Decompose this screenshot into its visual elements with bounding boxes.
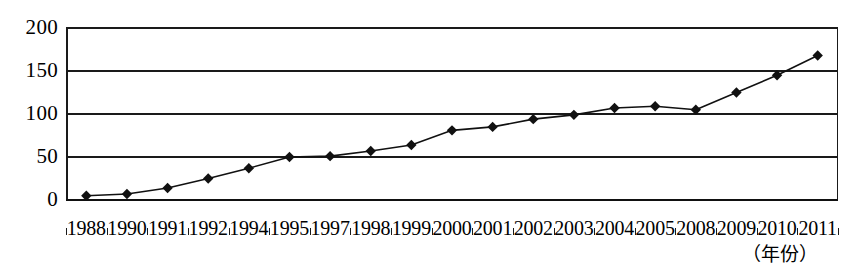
x-tick-label-2004: 2004 (592, 216, 638, 240)
x-tick-label-1999: 1999 (388, 216, 434, 240)
x-axis-title: （年份） (742, 243, 818, 267)
data-point-marker (81, 191, 91, 201)
data-point-marker (528, 114, 538, 124)
x-axis-tick-labels: 1988199019911992199419951997199819992000… (0, 216, 862, 242)
x-tick-label-2001: 2001 (470, 216, 516, 240)
x-tick-label-1988: 1988 (63, 216, 109, 240)
data-point-marker (203, 173, 213, 183)
data-point-marker (406, 140, 416, 150)
data-point-marker (284, 152, 294, 162)
data-point-marker (122, 189, 132, 199)
data-point-marker (487, 122, 497, 132)
data-point-marker (731, 87, 741, 97)
x-tick-label-2000: 2000 (429, 216, 475, 240)
x-tick-label-2009: 2009 (713, 216, 759, 240)
data-point-marker (244, 163, 254, 173)
data-point-marker (366, 146, 376, 156)
y-tick-label-100: 100 (10, 103, 58, 124)
data-point-marker (162, 183, 172, 193)
y-tick-label-150: 150 (10, 60, 58, 81)
x-tick-label-1990: 1990 (104, 216, 150, 240)
data-point-marker (569, 110, 579, 120)
x-tick-label-2002: 2002 (510, 216, 556, 240)
data-series-layer (66, 28, 838, 200)
x-tick-label-1994: 1994 (226, 216, 272, 240)
data-point-marker (325, 151, 335, 161)
x-tick-label-2005: 2005 (632, 216, 678, 240)
x-tick-label-1995: 1995 (266, 216, 312, 240)
data-point-marker (609, 103, 619, 113)
x-tick-label-2010: 2010 (754, 216, 800, 240)
y-tick-label-50: 50 (10, 146, 58, 167)
x-tick-label-1991: 1991 (145, 216, 191, 240)
x-tick-label-1997: 1997 (307, 216, 353, 240)
x-tick-label-2003: 2003 (551, 216, 597, 240)
line-chart: 050100150200 198819901991199219941995199… (0, 0, 862, 273)
x-tick-label-2008: 2008 (673, 216, 719, 240)
x-tick-label-2011: 2011 (795, 216, 841, 240)
data-point-marker (772, 70, 782, 80)
y-tick-label-0: 0 (10, 189, 58, 210)
y-tick-label-200: 200 (10, 17, 58, 38)
data-point-marker (691, 105, 701, 115)
data-point-marker (447, 125, 457, 135)
data-point-marker (650, 101, 660, 111)
data-point-marker (812, 50, 822, 60)
x-tick-label-1998: 1998 (348, 216, 394, 240)
x-tick-label-1992: 1992 (185, 216, 231, 240)
